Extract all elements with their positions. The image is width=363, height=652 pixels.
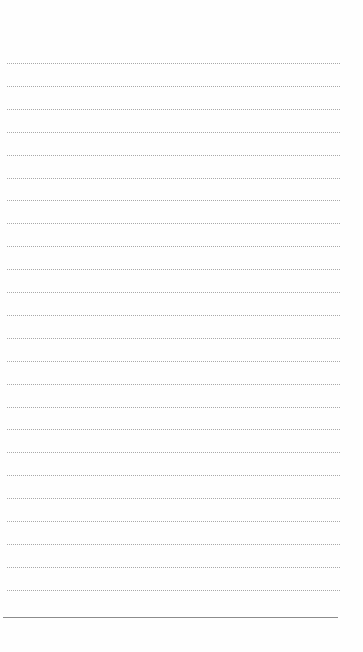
ruled-line: [7, 567, 340, 568]
ruled-line: [7, 475, 340, 476]
ruled-line: [7, 590, 340, 591]
ruled-line: [7, 452, 340, 453]
ruled-line: [7, 178, 340, 179]
ruled-line: [7, 200, 340, 201]
ruled-line: [7, 86, 340, 87]
ruled-line: [7, 338, 340, 339]
ruled-line: [7, 429, 340, 430]
ruled-line: [7, 63, 340, 64]
footer-area: [0, 619, 363, 652]
ruled-lines: [7, 0, 340, 600]
ruled-line: [7, 155, 340, 156]
ruled-line: [7, 498, 340, 499]
ruled-line: [7, 269, 340, 270]
ruled-line: [7, 132, 340, 133]
notepad-page: [0, 0, 363, 652]
ruled-line: [7, 361, 340, 362]
ruled-line: [7, 544, 340, 545]
ruled-line: [7, 384, 340, 385]
ruled-line: [7, 521, 340, 522]
ruled-line: [7, 109, 340, 110]
ruled-line: [7, 407, 340, 408]
ruled-line: [7, 223, 340, 224]
bottom-rule: [3, 617, 338, 618]
ruled-line: [7, 315, 340, 316]
ruled-line: [7, 292, 340, 293]
ruled-line: [7, 246, 340, 247]
